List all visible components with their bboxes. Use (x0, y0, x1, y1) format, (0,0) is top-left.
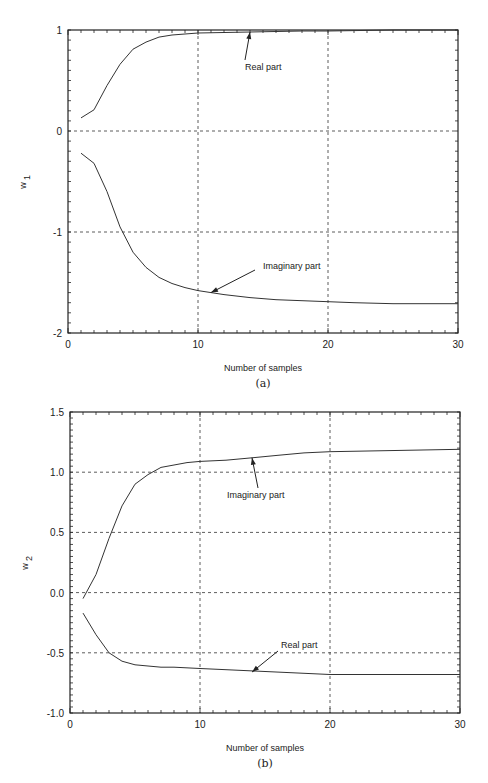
series-line-imaginary-part (81, 153, 458, 304)
y-axis-title-main: w (18, 182, 28, 190)
axis-ticks (68, 30, 458, 333)
figure-panel-b: 01020301.51.00.50.0-0.5-1.0w2Number of s… (0, 392, 488, 783)
x-tick-label: 20 (322, 339, 334, 350)
series-line-real-part (81, 30, 458, 118)
arrow-head-icon (246, 32, 251, 39)
axis-ticks (70, 412, 460, 713)
y-tick-label: 0.5 (50, 527, 64, 538)
arrow-head-icon (211, 287, 218, 292)
annotation: Real part (252, 640, 318, 672)
plot-frame (68, 30, 458, 333)
annotation: Imaginary part (211, 261, 321, 293)
series-line-real-part (83, 613, 460, 674)
x-axis-title: Number of samples (226, 743, 305, 753)
y-tick-label: 0 (56, 126, 62, 137)
y-axis-title: w2 (20, 556, 34, 571)
x-tick-label: 30 (454, 719, 466, 730)
y-axis-title-sub: 1 (22, 175, 32, 180)
x-tick-label: 0 (65, 339, 71, 350)
x-tick-label: 0 (67, 719, 73, 730)
chart-b: 01020301.51.00.50.0-0.5-1.0w2Number of s… (0, 392, 488, 783)
x-tick-label: 10 (194, 719, 206, 730)
annotation-arrow-line (211, 270, 255, 293)
grid-lines (68, 30, 458, 333)
y-tick-label: 1 (56, 25, 62, 36)
annotation-label: Real part (281, 640, 318, 650)
annotation-label: Imaginary part (227, 490, 285, 500)
annotation-label: Imaginary part (263, 261, 321, 271)
panel-caption: (b) (257, 757, 273, 770)
chart-a: 010203010-1-2w1Number of samples(a)Real … (0, 0, 488, 392)
x-axis-title: Number of samples (224, 363, 303, 373)
x-tick-label: 20 (324, 719, 336, 730)
panel-caption: (a) (255, 377, 270, 390)
series-line-imaginary-part (83, 449, 460, 598)
y-tick-label: 1.5 (50, 407, 64, 418)
y-axis-title-sub: 2 (24, 556, 34, 561)
annotation: Imaginary part (227, 458, 285, 500)
y-axis-title-main: w (20, 563, 30, 571)
y-tick-label: -1 (53, 227, 62, 238)
x-tick-label: 10 (192, 339, 204, 350)
y-tick-label: 0.0 (50, 588, 64, 599)
y-tick-label: 1.0 (50, 467, 64, 478)
plot-frame (70, 412, 460, 713)
annotation: Real part (245, 32, 282, 72)
annotation-label: Real part (245, 62, 282, 72)
grid-lines (70, 412, 460, 713)
figure-panel-a: 010203010-1-2w1Number of samples(a)Real … (0, 0, 488, 392)
arrow-head-icon (251, 458, 256, 465)
y-tick-label: -1.0 (47, 708, 65, 719)
y-axis-title: w1 (18, 175, 32, 190)
x-tick-label: 30 (452, 339, 464, 350)
y-tick-label: -2 (53, 328, 62, 339)
y-tick-label: -0.5 (47, 648, 65, 659)
